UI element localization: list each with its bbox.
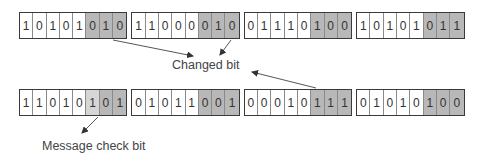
changed-bit-label: Changed bit: [172, 58, 239, 72]
arrow-to-changed-bit-3: [252, 72, 316, 88]
arrow-to-changed-bit-2: [220, 40, 231, 55]
message-check-bit-label: Message check bit: [42, 139, 146, 153]
arrow-to-message-check-bit: [82, 117, 98, 133]
arrows: [0, 0, 480, 155]
arrow-to-changed-bit-1: [113, 40, 193, 56]
